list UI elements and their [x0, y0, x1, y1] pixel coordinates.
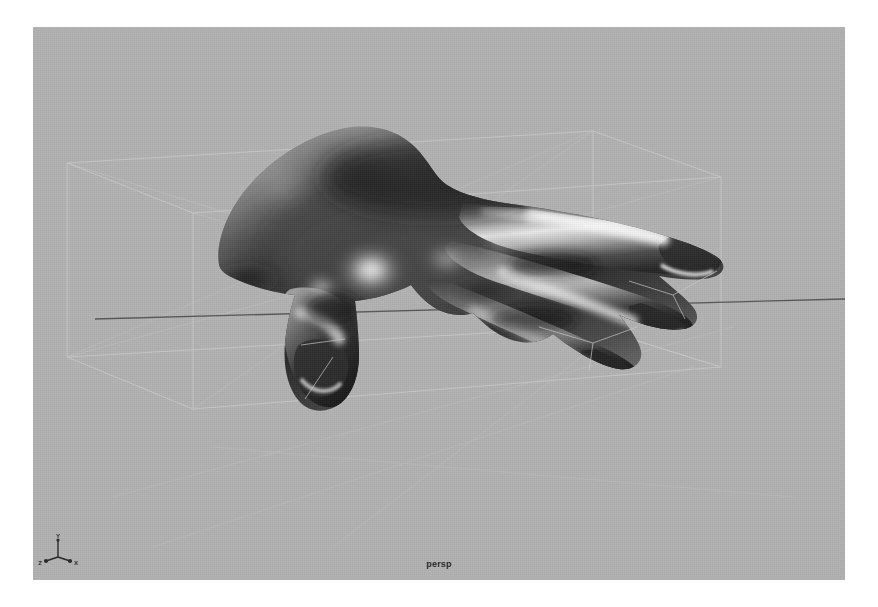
specular-main — [337, 244, 405, 296]
shadow-hand-top — [323, 139, 543, 215]
viewport-camera-label: persp — [426, 560, 452, 569]
perspective-viewport[interactable]: persp Y Z X — [33, 27, 845, 580]
hand-model[interactable] — [205, 127, 723, 411]
axis-label-x: X — [74, 560, 78, 566]
highlight-index-streak2 — [485, 211, 531, 217]
viewport-canvas[interactable] — [33, 27, 845, 580]
axis-gizmo-icon: Y Z X — [36, 531, 80, 567]
shadow-knuckle-gap — [441, 273, 529, 309]
shadow-thumb-base — [305, 293, 361, 325]
axis-label-y: Y — [56, 533, 60, 539]
shadow-finger-gap-1 — [509, 253, 597, 277]
axis-label-z: Z — [38, 560, 42, 566]
shadow-wrist-under — [213, 261, 281, 297]
shadow-finger-gap-2 — [489, 307, 577, 331]
specular-knuckle-b — [479, 230, 523, 256]
specular-wrist — [251, 163, 311, 207]
axis-orientation-gizmo[interactable]: Y Z X — [36, 531, 80, 567]
app-window: persp Y Z X — [0, 0, 878, 607]
specular-knuckle-a — [421, 243, 473, 275]
